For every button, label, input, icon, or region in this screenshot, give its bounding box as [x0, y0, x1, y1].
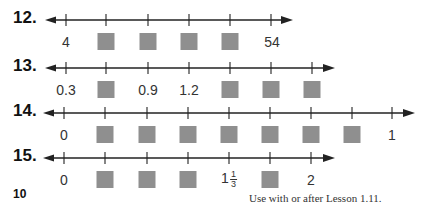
right-arrow-icon — [323, 154, 335, 162]
page-number: 10 — [13, 187, 26, 201]
answer-box[interactable] — [262, 171, 279, 188]
answer-box[interactable] — [139, 171, 156, 188]
lesson-footer: Use with or after Lesson 1.11. — [249, 192, 381, 204]
answer-box[interactable] — [97, 171, 114, 188]
answer-box[interactable] — [180, 171, 197, 188]
mixed-number-label: 113 — [221, 170, 237, 189]
fraction: 13 — [230, 170, 237, 189]
tick-label: 0 — [60, 172, 68, 188]
denominator: 3 — [230, 180, 237, 189]
tick-label: 2 — [307, 172, 315, 188]
whole-part: 1 — [221, 170, 229, 186]
left-arrow-icon — [43, 155, 54, 162]
